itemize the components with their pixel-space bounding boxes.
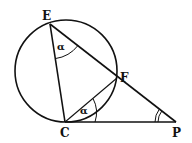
angle-arc-c <box>93 99 97 123</box>
label-e: E <box>42 9 51 23</box>
angle-arc-p-inner <box>158 111 162 122</box>
circle <box>15 20 117 122</box>
label-f: F <box>120 71 129 85</box>
segment-ec <box>50 24 65 122</box>
label-p: P <box>172 126 181 140</box>
label-c: C <box>60 126 70 140</box>
alpha-c: α <box>80 105 88 116</box>
alpha-e: α <box>57 41 65 52</box>
geometry-diagram: E F C P α α <box>0 0 192 143</box>
segment-ep <box>50 24 176 122</box>
